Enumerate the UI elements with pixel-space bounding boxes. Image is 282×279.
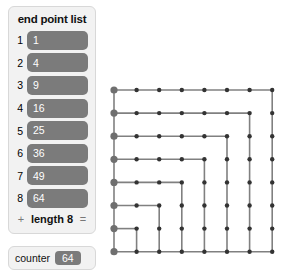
lattice-node[interactable] bbox=[134, 250, 138, 254]
list-item-index: 5 bbox=[9, 125, 27, 137]
list-item-index: 2 bbox=[9, 57, 27, 69]
lattice-node[interactable] bbox=[157, 250, 161, 254]
lattice-path-graph bbox=[105, 80, 282, 279]
lattice-node[interactable] bbox=[134, 203, 138, 207]
end-point-list-panel: end point list 112439416525636749864 + l… bbox=[8, 6, 96, 234]
lattice-node[interactable] bbox=[225, 203, 229, 207]
list-item-value-pill[interactable]: 4 bbox=[27, 53, 88, 72]
equals-button[interactable]: = bbox=[78, 213, 88, 225]
lattice-node[interactable] bbox=[202, 88, 206, 92]
list-item[interactable]: 11 bbox=[9, 29, 95, 52]
lattice-node[interactable] bbox=[180, 250, 184, 254]
lattice-node[interactable] bbox=[247, 88, 251, 92]
lattice-node[interactable] bbox=[270, 134, 274, 138]
list-item-value-pill[interactable]: 64 bbox=[27, 189, 88, 208]
lattice-node[interactable] bbox=[202, 250, 206, 254]
lattice-node[interactable] bbox=[202, 203, 206, 207]
list-item-index: 4 bbox=[9, 102, 27, 114]
lattice-node[interactable] bbox=[247, 111, 251, 115]
lattice-node[interactable] bbox=[202, 157, 206, 161]
endpoint-node[interactable] bbox=[110, 179, 117, 186]
lattice-node[interactable] bbox=[225, 134, 229, 138]
counter-value: 64 bbox=[55, 251, 81, 266]
add-item-button[interactable]: + bbox=[16, 213, 26, 225]
lattice-node[interactable] bbox=[134, 88, 138, 92]
list-item-value-pill[interactable]: 25 bbox=[27, 121, 88, 140]
endpoint-node[interactable] bbox=[110, 110, 117, 117]
list-item-value-pill[interactable]: 16 bbox=[27, 99, 88, 118]
endpoint-node[interactable] bbox=[110, 156, 117, 163]
list-item[interactable]: 636 bbox=[9, 142, 95, 165]
lattice-node[interactable] bbox=[247, 250, 251, 254]
lattice-node[interactable] bbox=[247, 226, 251, 230]
lattice-node[interactable] bbox=[134, 180, 138, 184]
end-point-list-footer: + length 8 = bbox=[9, 209, 95, 229]
list-item-value-pill[interactable]: 9 bbox=[27, 76, 88, 95]
lattice-node[interactable] bbox=[180, 180, 184, 184]
end-point-list-title: end point list bbox=[9, 7, 95, 31]
list-item[interactable]: 864 bbox=[9, 187, 95, 210]
lattice-node[interactable] bbox=[202, 180, 206, 184]
lattice-node[interactable] bbox=[134, 226, 138, 230]
lattice-node[interactable] bbox=[134, 111, 138, 115]
lattice-node[interactable] bbox=[225, 250, 229, 254]
list-item-value: 4 bbox=[27, 58, 39, 69]
lattice-node[interactable] bbox=[270, 111, 274, 115]
lattice-node[interactable] bbox=[134, 134, 138, 138]
lattice-node[interactable] bbox=[225, 180, 229, 184]
lattice-node[interactable] bbox=[157, 157, 161, 161]
lattice-node[interactable] bbox=[225, 226, 229, 230]
lattice-node[interactable] bbox=[157, 88, 161, 92]
counter-panel[interactable]: counter 64 bbox=[8, 246, 96, 270]
lattice-node[interactable] bbox=[225, 88, 229, 92]
lattice-node[interactable] bbox=[247, 203, 251, 207]
lattice-node[interactable] bbox=[225, 111, 229, 115]
endpoint-node[interactable] bbox=[110, 225, 117, 232]
lattice-node[interactable] bbox=[225, 157, 229, 161]
list-length-label: length 8 bbox=[26, 213, 78, 225]
lattice-node[interactable] bbox=[247, 134, 251, 138]
lattice-node[interactable] bbox=[134, 157, 138, 161]
lattice-node[interactable] bbox=[202, 111, 206, 115]
list-item-index: 6 bbox=[9, 147, 27, 159]
lattice-node[interactable] bbox=[270, 226, 274, 230]
list-item-index: 7 bbox=[9, 170, 27, 182]
lattice-node[interactable] bbox=[247, 180, 251, 184]
lattice-node[interactable] bbox=[180, 203, 184, 207]
list-item-value: 25 bbox=[27, 125, 45, 136]
lattice-node[interactable] bbox=[270, 250, 274, 254]
lattice-node[interactable] bbox=[180, 226, 184, 230]
lattice-node[interactable] bbox=[202, 226, 206, 230]
lattice-node[interactable] bbox=[157, 134, 161, 138]
endpoint-node[interactable] bbox=[110, 133, 117, 140]
lattice-node[interactable] bbox=[202, 134, 206, 138]
lattice-path-svg bbox=[105, 80, 282, 279]
list-item[interactable]: 525 bbox=[9, 119, 95, 142]
list-item-value-pill[interactable]: 36 bbox=[27, 144, 88, 163]
lattice-node[interactable] bbox=[157, 226, 161, 230]
list-item-value-pill[interactable]: 49 bbox=[27, 166, 88, 185]
list-item[interactable]: 24 bbox=[9, 52, 95, 75]
lattice-node[interactable] bbox=[270, 180, 274, 184]
lattice-node[interactable] bbox=[180, 134, 184, 138]
list-item[interactable]: 39 bbox=[9, 74, 95, 97]
endpoint-node[interactable] bbox=[110, 86, 117, 93]
endpoint-node[interactable] bbox=[110, 202, 117, 209]
lattice-node[interactable] bbox=[270, 88, 274, 92]
list-item-index: 8 bbox=[9, 192, 27, 204]
lattice-node[interactable] bbox=[157, 111, 161, 115]
lattice-node[interactable] bbox=[180, 157, 184, 161]
lattice-node[interactable] bbox=[180, 88, 184, 92]
list-item-value-pill[interactable]: 1 bbox=[27, 31, 88, 50]
lattice-node[interactable] bbox=[157, 203, 161, 207]
lattice-node[interactable] bbox=[270, 203, 274, 207]
list-item[interactable]: 416 bbox=[9, 97, 95, 120]
lattice-node[interactable] bbox=[247, 157, 251, 161]
endpoint-node[interactable] bbox=[110, 248, 117, 255]
lattice-node[interactable] bbox=[157, 180, 161, 184]
lattice-node[interactable] bbox=[180, 111, 184, 115]
lattice-node[interactable] bbox=[270, 157, 274, 161]
list-item-value: 16 bbox=[27, 103, 45, 114]
counter-label: counter bbox=[15, 252, 50, 264]
list-item[interactable]: 749 bbox=[9, 165, 95, 188]
